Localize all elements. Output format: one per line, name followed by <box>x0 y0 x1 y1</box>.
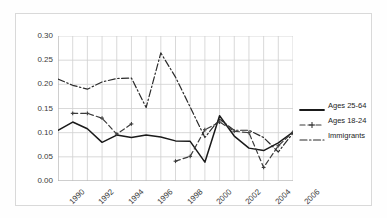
series-marker-1 <box>262 166 266 170</box>
y-tick-label: 0.25 <box>37 56 53 64</box>
x-tick-label: 1992 <box>98 188 116 206</box>
chart-legend: Ages 25-64Ages 18-24Immigrants <box>299 98 387 143</box>
legend-item-1[interactable]: Ages 18-24 <box>299 113 387 128</box>
y-tick-label: 0.00 <box>37 177 53 185</box>
series-marker-1 <box>71 111 75 115</box>
y-tick-label: 0.20 <box>37 80 53 88</box>
dashdot-line-key <box>299 131 325 141</box>
x-tick-label: 2000 <box>215 188 233 206</box>
legend-label: Immigrants <box>328 131 365 140</box>
legend-item-2[interactable]: Immigrants <box>299 128 387 143</box>
series-marker-1 <box>174 159 178 163</box>
chart-figure: 0.000.050.100.150.200.250.30 19901992199… <box>0 0 387 218</box>
x-tick-label: 2004 <box>274 188 292 206</box>
y-tick-label: 0.10 <box>37 129 53 137</box>
x-tick-label: 2002 <box>244 188 262 206</box>
x-tick-label: 2006 <box>303 188 321 206</box>
solid-line-key <box>299 101 325 111</box>
x-tick-label: 1994 <box>127 188 145 206</box>
y-tick-label: 0.05 <box>37 153 53 161</box>
plot-svg <box>58 36 293 181</box>
chart-frame: 0.000.050.100.150.200.250.30 19901992199… <box>15 13 372 206</box>
dashed-cross-line-key <box>299 116 325 126</box>
x-tick-label: 1998 <box>186 188 204 206</box>
x-tick-label: 1996 <box>156 188 174 206</box>
series-marker-1 <box>85 111 89 115</box>
plot-area: 0.000.050.100.150.200.250.30 19901992199… <box>58 36 293 181</box>
legend-label: Ages 18-24 <box>328 116 366 125</box>
x-tick-label: 1990 <box>68 188 86 206</box>
y-tick-label: 0.30 <box>37 32 53 40</box>
legend-item-0[interactable]: Ages 25-64 <box>299 98 387 113</box>
y-tick-label: 0.15 <box>37 105 53 113</box>
legend-label: Ages 25-64 <box>328 101 366 110</box>
